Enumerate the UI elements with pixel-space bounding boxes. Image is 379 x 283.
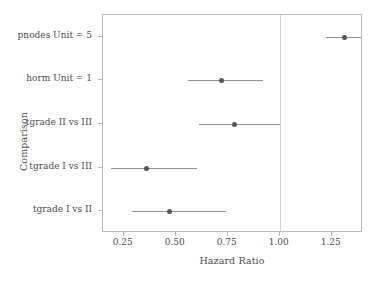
x-tick	[227, 232, 228, 236]
x-tick	[175, 232, 176, 236]
x-tick-label: 0.25	[103, 237, 143, 247]
plot-area	[102, 14, 362, 232]
confidence-interval-bar	[132, 211, 226, 212]
x-tick-label: 0.75	[207, 237, 247, 247]
forest-plot-figure: Comparison Hazard Ratio 0.250.500.751.00…	[0, 0, 379, 283]
estimate-point	[219, 78, 224, 83]
x-tick-label: 1.00	[259, 237, 299, 247]
x-tick	[123, 232, 124, 236]
y-tick-label: tgrade I vs II	[0, 204, 92, 214]
y-tick	[98, 167, 102, 168]
confidence-interval-bar	[111, 168, 196, 169]
confidence-interval-bar	[188, 80, 263, 81]
y-tick-label: pnodes Unit = 5	[0, 30, 92, 40]
x-tick	[331, 232, 332, 236]
y-tick	[98, 79, 102, 80]
x-tick-label: 0.50	[155, 237, 195, 247]
y-tick-label: tgrade II vs III	[0, 117, 92, 127]
x-tick-label: 1.25	[311, 237, 351, 247]
y-tick-label: horm Unit = 1	[0, 73, 92, 83]
y-axis-title: Comparison	[18, 0, 36, 283]
x-axis-title: Hazard Ratio	[102, 255, 362, 266]
y-tick-label: tgrade I vs III	[0, 161, 92, 171]
reference-line-hr-1	[280, 15, 281, 231]
x-tick	[279, 232, 280, 236]
estimate-point	[342, 35, 347, 40]
confidence-interval-bar	[199, 124, 280, 125]
y-tick	[98, 210, 102, 211]
y-tick	[98, 123, 102, 124]
y-tick	[98, 36, 102, 37]
estimate-point	[232, 122, 237, 127]
estimate-point	[144, 166, 149, 171]
estimate-point	[167, 209, 172, 214]
